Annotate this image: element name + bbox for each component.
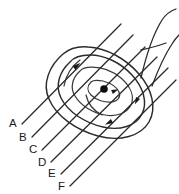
diagram-canvas: A B C D E F (0, 0, 179, 194)
flow-arrow-lower-center (104, 119, 113, 127)
label-F: F (58, 180, 65, 192)
label-D: D (38, 156, 46, 168)
secant-line-B (32, 35, 133, 137)
label-A: A (9, 117, 17, 129)
center-point (100, 85, 108, 93)
label-B: B (19, 131, 27, 143)
figure-root: A B C D E F (0, 0, 179, 194)
label-E: E (48, 167, 56, 179)
flow-arrow-group (73, 61, 140, 127)
secant-line-E (61, 68, 168, 174)
label-group: A B C D E F (9, 117, 65, 192)
label-C: C (29, 143, 37, 155)
secant-line-A (22, 24, 121, 124)
escape-curve-group (141, 9, 179, 86)
secant-line-D (51, 57, 157, 162)
